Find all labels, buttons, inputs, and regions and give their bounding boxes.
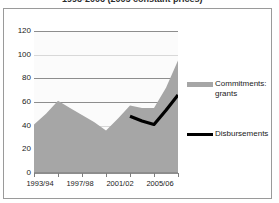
legend-item-disbursements: Disbursements bbox=[187, 129, 268, 139]
x-tickmark-5 bbox=[154, 173, 155, 177]
x-tick-2001-02: 2001/02 bbox=[106, 179, 133, 188]
chart-title: 1993-2006 (2005 constant prices) bbox=[62, 0, 203, 4]
x-tickmark-6 bbox=[178, 173, 179, 177]
figure-border: USD Million 120 100 80 60 40 20 0 bbox=[3, 8, 272, 199]
y-tick-20: 20 bbox=[5, 145, 31, 153]
y-tick-40: 40 bbox=[5, 122, 31, 130]
x-tickmark-4 bbox=[130, 173, 131, 177]
x-axis-tick-labels: 1993/94 1997/98 2001/02 2005/06 bbox=[34, 179, 194, 191]
x-tickmark-3 bbox=[106, 173, 107, 177]
y-tick-60: 60 bbox=[5, 98, 31, 106]
y-axis-tick-labels: 120 100 80 60 40 20 0 bbox=[4, 31, 31, 173]
legend-item-commitments-grants: Commitments: grants bbox=[187, 79, 273, 98]
chart-figure: 1993-2006 (2005 constant prices) USD Mil… bbox=[0, 0, 279, 203]
x-tickmark-0 bbox=[34, 173, 35, 177]
y-tick-100: 100 bbox=[5, 51, 31, 59]
y-tick-0: 0 bbox=[5, 169, 31, 177]
legend-swatch-area-icon bbox=[187, 82, 213, 87]
x-tick-1997-98: 1997/98 bbox=[66, 179, 93, 188]
legend-label-disbursements: Disbursements bbox=[215, 129, 268, 139]
x-tickmark-2 bbox=[82, 173, 83, 177]
plot-area bbox=[34, 31, 178, 173]
y-tick-120: 120 bbox=[5, 27, 31, 35]
area-commitments-grants bbox=[34, 61, 178, 173]
chart-title-strip: 1993-2006 (2005 constant prices) bbox=[0, 0, 279, 7]
y-tick-80: 80 bbox=[5, 74, 31, 82]
legend-label-commitments-grants: Commitments: grants bbox=[215, 79, 273, 98]
chart-series-layer bbox=[34, 31, 178, 173]
x-tick-2005-06: 2005/06 bbox=[146, 179, 173, 188]
x-tickmark-1 bbox=[58, 173, 59, 177]
legend-swatch-line-icon bbox=[187, 133, 213, 136]
x-tick-1993-94: 1993/94 bbox=[26, 179, 53, 188]
